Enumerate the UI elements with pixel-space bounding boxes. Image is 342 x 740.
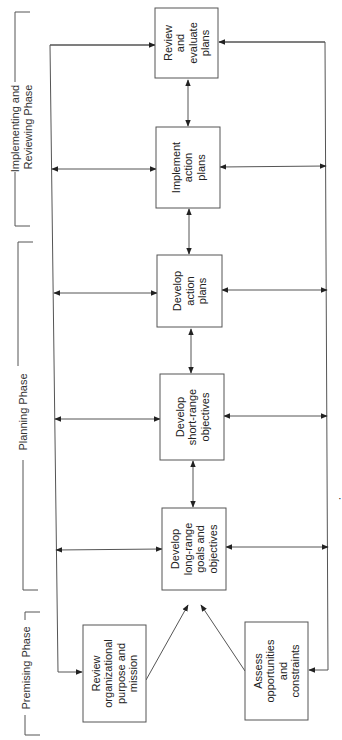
box-label-line: action (182, 153, 194, 182)
box-label: Developlong-rangegoals andobjectives (169, 523, 219, 576)
box-long-range: Developlong-rangegoals andobjectives (162, 508, 226, 590)
stray-mark: · (338, 492, 342, 504)
box-label: Developshort-rangeobjectives (174, 389, 211, 445)
box-label-line: goals and (194, 525, 206, 573)
phase-label-implementing: Implementing and Reviewing Phase (9, 82, 34, 173)
box-label-line: Develop (174, 397, 186, 437)
box-label-line: objectives (199, 392, 211, 441)
box-label-line: Review (162, 25, 174, 61)
box-label-line: plans (199, 29, 211, 56)
box-label-line: mission (127, 655, 139, 692)
box-label-line: plans (196, 277, 208, 304)
box-label-line: opportunities (264, 639, 276, 702)
box-review-evaluate: Reviewandevaluateplans (155, 8, 218, 78)
box-review-purpose: Revieworganizationalpurpose andmission (83, 625, 146, 722)
box-label-line: plans (195, 154, 207, 181)
phase-bracket-planning: Planning Phase (17, 242, 38, 590)
box-label-line: and (277, 662, 289, 680)
box-label-line: action (184, 276, 196, 305)
box-label-line: constraints (289, 644, 301, 698)
box-label-line: short-range (186, 389, 198, 445)
box-label-line: Review (90, 655, 102, 691)
link-purpose-long (146, 605, 188, 680)
box-label-line: Develop (171, 271, 183, 311)
box-label-line: Implement (170, 142, 182, 193)
box-label-line: Develop (169, 529, 181, 569)
box-assess: Assessopportunitiesandconstraints (245, 622, 308, 720)
phase-bracket-implementing: Implementing and Reviewing Phase (9, 12, 34, 226)
box-implement: Implementactionplans (156, 127, 220, 208)
feedback-bus-right (219, 42, 328, 670)
box-action-plans: Developactionplans (157, 255, 222, 327)
box-label-line: long-range (182, 523, 194, 576)
box-label-line: evaluate (187, 22, 199, 64)
box-label-line: organizational (102, 639, 114, 708)
box-short-range: Developshort-rangeobjectives (160, 374, 224, 460)
phase-label-premising: Premising Phase (20, 626, 32, 709)
phase-bracket-premising: Premising Phase (20, 612, 40, 735)
box-label-line: and (174, 34, 186, 52)
connector-right-implement (220, 166, 326, 167)
connector-left-long (56, 549, 162, 550)
box-label-line: Assess (252, 653, 264, 689)
link-assess-long (201, 605, 245, 671)
box-label-line: objectives (207, 524, 219, 573)
feedback-bus-left (50, 45, 155, 672)
planning-process-diagram: Implementing and Reviewing Phase Plannin… (0, 0, 342, 740)
phase-label-planning: Planning Phase (17, 373, 29, 450)
box-label-line: purpose and (115, 643, 127, 704)
